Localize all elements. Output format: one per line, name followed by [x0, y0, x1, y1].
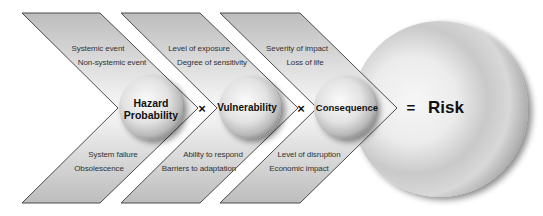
multiply-operator: ×	[198, 101, 206, 116]
factor-text: Severity of impact	[266, 44, 328, 54]
factor-text: Obsolescence	[74, 164, 124, 174]
factor-text: Ability to respond	[183, 150, 243, 160]
factor-text: Barriers to adaptation	[162, 164, 236, 174]
equals-operator: =	[407, 99, 416, 116]
multiply-operator: ×	[297, 101, 305, 116]
label-line: Probability	[124, 109, 178, 121]
label-line: Hazard	[124, 97, 178, 109]
factor-text: System failure	[88, 150, 137, 160]
factor-text: Loss of life	[286, 58, 323, 68]
hazard-probability-label: Hazard Probability	[124, 97, 178, 121]
factor-text: Systemic event	[72, 44, 125, 54]
factor-text: Level of disruption	[277, 150, 340, 160]
factor-text: Non-systemic event	[78, 58, 146, 68]
factor-text: Level of exposure	[168, 44, 229, 54]
vulnerability-label: Vulnerability	[217, 102, 277, 114]
factor-text: Degree of sensitivity	[177, 58, 247, 68]
consequence-label: Consequence	[316, 102, 378, 114]
factor-text: Economic impact	[269, 164, 328, 174]
risk-diagram: Systemic event Non-systemic event System…	[0, 0, 543, 216]
risk-label: Risk	[428, 98, 464, 118]
